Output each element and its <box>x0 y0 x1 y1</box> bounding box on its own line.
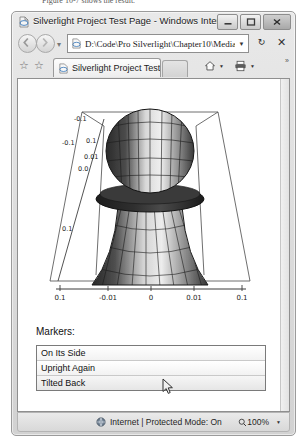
book-figure-caption: Figure 10-7 shows the result. <box>42 0 262 8</box>
stop-icon[interactable]: ✕ <box>273 34 290 51</box>
minimize-icon <box>222 17 234 27</box>
silverlight-3d-chart[interactable]: 0.1 -0.01 0 0.01 0.1 -0.1 -0.1 0.1 0.01 … <box>18 79 280 311</box>
security-zone[interactable]: Internet | Protected Mode: On <box>96 417 222 427</box>
print-button[interactable]: ▼ <box>234 59 255 73</box>
print-icon <box>234 60 247 72</box>
new-tab-button[interactable] <box>162 60 188 77</box>
forward-arrow-icon <box>37 35 52 50</box>
chevron-down-icon[interactable]: ▼ <box>235 41 248 47</box>
screenshot-root: Figure 10-7 shows the result. Silverligh… <box>0 0 306 441</box>
svg-text:0.1: 0.1 <box>86 137 96 145</box>
svg-text:0.01: 0.01 <box>84 153 98 161</box>
page-content: 0.1 -0.01 0 0.01 0.1 -0.1 -0.1 0.1 0.01 … <box>17 78 290 412</box>
globe-icon <box>96 417 106 427</box>
address-bar-row: ▾ D:\Code\Pro Silverlight\Chapter10\Medi… <box>12 32 295 55</box>
markers-label: Markers: <box>36 326 75 337</box>
svg-text:-0.1: -0.1 <box>74 115 87 123</box>
address-input[interactable]: D:\Code\Pro Silverlight\Chapter10\Media\… <box>67 34 249 53</box>
svg-text:-0.1: -0.1 <box>62 139 75 147</box>
pawn-base <box>92 205 208 287</box>
vertical-scrollbar[interactable] <box>280 79 289 411</box>
pawn-head <box>106 109 194 193</box>
close-button[interactable] <box>263 14 291 30</box>
home-icon <box>204 60 216 72</box>
chart-x-tick-labels: 0.1 -0.01 0 0.01 0.1 <box>54 294 247 302</box>
tab-bar: ☆ ☆ Silverlight Project Test P... ▼ <box>12 55 295 77</box>
favorites-center-icon[interactable]: ☆ <box>34 59 44 72</box>
chart-x-axis <box>56 285 246 291</box>
back-arrow-icon <box>19 35 34 50</box>
browser-window: Silverlight Project Test Page - Windows … <box>11 11 296 436</box>
toolbar-overflow-icon[interactable]: » <box>285 57 289 64</box>
svg-text:-0.01: -0.01 <box>99 294 117 302</box>
svg-text:0.1: 0.1 <box>62 225 72 233</box>
print-dropdown-icon[interactable]: ▼ <box>250 63 255 69</box>
zoom-level: 100% <box>247 417 269 427</box>
tab-label: Silverlight Project Test P... <box>72 63 160 73</box>
forward-button[interactable] <box>36 34 55 53</box>
home-dropdown-icon[interactable]: ▼ <box>219 63 224 69</box>
svg-text:0.0: 0.0 <box>78 165 88 173</box>
list-item[interactable]: Upright Again <box>37 361 265 376</box>
svg-text:0.01: 0.01 <box>186 294 202 302</box>
maximize-icon <box>245 17 257 27</box>
title-bar: Silverlight Project Test Page - Windows … <box>12 12 295 32</box>
status-bar: Internet | Protected Mode: On 100% ▼ <box>17 412 290 432</box>
chart-depth-tick-labels: -0.1 -0.1 0.1 0.01 0.0 0.1 <box>62 115 98 233</box>
address-value: D:\Code\Pro Silverlight\Chapter10\Media\… <box>85 39 235 49</box>
ie-page-icon <box>18 16 30 28</box>
zone-text: Internet | Protected Mode: On <box>110 417 222 427</box>
list-item[interactable]: On Its Side <box>37 346 265 361</box>
history-dropdown-icon[interactable]: ▾ <box>57 40 61 49</box>
tab-silverlight-test-page[interactable]: Silverlight Project Test P... <box>53 58 161 77</box>
window-controls <box>217 14 291 30</box>
refresh-icon[interactable]: ↻ <box>253 34 270 51</box>
svg-text:0.1: 0.1 <box>236 294 247 302</box>
maximize-button[interactable] <box>240 14 261 30</box>
minimize-button[interactable] <box>217 14 238 30</box>
back-button[interactable] <box>18 34 37 53</box>
ie-tab-icon <box>58 63 69 74</box>
svg-text:0: 0 <box>149 294 153 302</box>
page-icon <box>71 38 82 49</box>
svg-text:0.1: 0.1 <box>54 294 65 302</box>
add-favorites-icon[interactable]: ☆ <box>19 59 29 72</box>
markers-listbox[interactable]: On Its Side Upright Again Tilted Back <box>36 345 266 391</box>
zoom-dropdown-icon[interactable]: ▼ <box>276 419 281 425</box>
window-title: Silverlight Project Test Page - Windows … <box>33 15 217 29</box>
magnifier-icon <box>238 418 247 427</box>
home-button[interactable]: ▼ <box>204 59 224 73</box>
close-icon <box>270 17 284 27</box>
list-item[interactable]: Tilted Back <box>37 376 265 390</box>
zoom-control[interactable]: 100% ▼ <box>238 417 281 427</box>
chart-canvas: 0.1 -0.01 0 0.01 0.1 -0.1 -0.1 0.1 0.01 … <box>18 79 282 311</box>
